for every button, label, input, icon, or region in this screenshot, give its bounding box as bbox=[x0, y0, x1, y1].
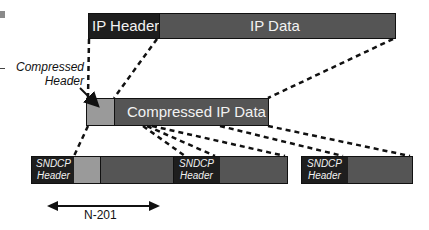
dimension-arrowhead-right bbox=[149, 201, 160, 211]
dash-seg1-left bbox=[74, 126, 88, 156]
dash-seg2-right bbox=[152, 126, 285, 156]
dash-seg1-right bbox=[143, 126, 185, 156]
dash-ipheader-left bbox=[88, 39, 89, 98]
dimension-label: N-201 bbox=[84, 208, 117, 222]
dimension-arrowhead-left bbox=[47, 201, 58, 211]
dash-ipheader-right bbox=[114, 39, 157, 98]
dash-seg3-right bbox=[268, 126, 410, 156]
dash-ipdata-right bbox=[268, 39, 393, 98]
annotation-arrow bbox=[80, 88, 97, 105]
connector-lines bbox=[0, 0, 429, 230]
dash-seg3-left bbox=[220, 126, 343, 156]
dash-seg2-left bbox=[147, 126, 215, 156]
